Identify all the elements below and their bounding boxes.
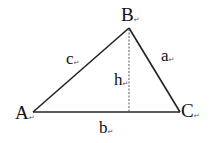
vertex-c-text: C	[181, 100, 194, 121]
vertex-label-a: A↵	[15, 103, 35, 122]
return-mark-icon: ↵	[134, 16, 140, 24]
return-mark-icon: ↵	[29, 114, 35, 122]
side-a-line	[129, 28, 180, 112]
side-label-b: b↵	[99, 119, 113, 136]
vertex-b-text: B	[121, 4, 134, 25]
vertex-label-b: B↵	[121, 5, 140, 24]
side-b-text: b	[99, 118, 108, 137]
return-mark-icon: ↵	[74, 59, 80, 67]
return-mark-icon: ↵	[123, 80, 129, 88]
return-mark-icon: ↵	[108, 128, 114, 136]
vertex-a-text: A	[15, 102, 29, 123]
altitude-label-h: h↵	[114, 71, 128, 88]
side-label-a: a↵	[161, 47, 174, 64]
side-a-text: a	[161, 46, 169, 65]
return-mark-icon: ↵	[194, 112, 200, 120]
altitude-h-text: h	[114, 70, 123, 89]
vertex-label-c: C↵	[181, 101, 200, 120]
return-mark-icon: ↵	[169, 56, 175, 64]
side-label-c: c↵	[66, 50, 79, 67]
side-c-text: c	[66, 49, 74, 68]
